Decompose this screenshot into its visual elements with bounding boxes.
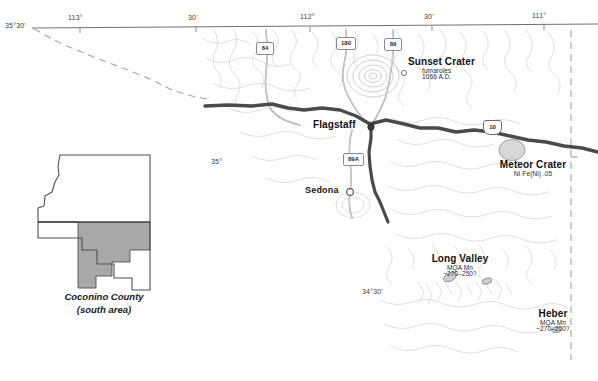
map-canvas	[0, 0, 598, 381]
place-label-heber-sub2: ~270–250?	[512, 326, 594, 333]
place-label-flagstaff: Flagstaff	[313, 120, 356, 131]
highway-shield-180[interactable]: 180	[336, 37, 356, 50]
graticule-label-lat-3430: 34°30'	[362, 288, 383, 295]
place-label-heber-name: Heber	[512, 309, 594, 320]
highway-shield-64-label: 64	[257, 45, 273, 51]
san-francisco-peaks-contours	[347, 55, 399, 97]
sedona-marker	[347, 189, 354, 196]
graticule-label-lon-113: 113°	[68, 14, 83, 21]
highway-shield-89a-label: 89A	[344, 156, 363, 162]
sunset-crater-marker	[401, 70, 406, 75]
flagstaff-marker	[368, 124, 374, 130]
highway-shield-interstate-10-label: 10	[484, 124, 501, 130]
interstate-40-route	[205, 104, 598, 152]
inset-map-coconino-county	[38, 155, 150, 290]
graticule-label-lat-3530: 35°30'	[5, 22, 26, 29]
place-label-meteor-crater-name: Meteor Crater	[487, 160, 579, 171]
place-label-long-valley-name: Long Valley	[415, 254, 505, 265]
graticule-label-lon-111: 111°	[532, 12, 546, 19]
highway-shield-interstate-10[interactable]: 10	[483, 120, 502, 135]
inset-caption-line2: (south area)	[26, 305, 182, 315]
place-label-long-valley: Long Valley MQA Mn ~270–250?	[415, 254, 505, 278]
graticule-label-lon-111-30: 30'	[424, 13, 434, 20]
place-label-long-valley-sub2: ~270–250?	[415, 271, 505, 278]
graticule-label-lon-112-30: 30'	[188, 14, 198, 21]
graticule-top-line	[32, 24, 598, 33]
highway-shield-64[interactable]: 64	[256, 42, 274, 55]
place-label-sunset-crater: Sunset Crater fumaroles 1066 A.D.	[408, 57, 475, 81]
place-label-sunset-crater-sub2: 1066 A.D.	[408, 74, 475, 81]
graticule-label-lon-112: 112°	[300, 13, 315, 20]
highway-shield-180-label: 180	[337, 40, 355, 46]
inset-county-south-shaded	[38, 222, 150, 288]
interstate-17-route	[369, 124, 388, 222]
place-label-meteor-crater: Meteor Crater NI Fe(Ni) .05	[487, 160, 579, 177]
place-label-sedona: Sedona	[305, 186, 339, 195]
inset-caption-line1: Coconino County	[26, 292, 182, 302]
highway-shield-89a[interactable]: 89A	[343, 153, 364, 166]
place-label-heber: Heber MQA Mn ~270–250?	[512, 309, 594, 333]
highway-shield-89-label: 89	[385, 41, 401, 47]
highway-shield-89[interactable]: 89	[384, 38, 402, 51]
mormon-lake-contours	[336, 192, 370, 218]
place-label-sunset-crater-name: Sunset Crater	[408, 57, 475, 68]
graticule-label-lat-35: 35°	[211, 158, 222, 165]
hydrography-network	[202, 30, 568, 353]
map-figure: 35°30' 113° 30' 112° 30' 111° 35° 34°30'…	[0, 0, 598, 381]
meteor-crater-polygon	[499, 140, 525, 161]
place-label-meteor-crater-sub1: NI Fe(Ni) .05	[487, 171, 579, 178]
